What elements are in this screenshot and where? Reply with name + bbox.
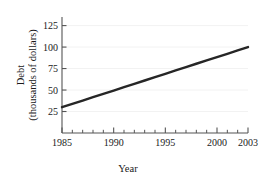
- y-axis-title-line1: Debt: [15, 65, 26, 85]
- x-tick-label-2000: 2000: [207, 137, 227, 148]
- x-axis-title: Year: [118, 163, 138, 174]
- x-tick-label-2003: 2003: [238, 137, 258, 148]
- chart-background: [0, 0, 259, 178]
- y-tick-label-75: 75: [48, 63, 58, 74]
- x-tick-label-1985: 1985: [52, 137, 72, 148]
- y-axis-title-line2: (thousands of dollars): [27, 29, 39, 121]
- y-tick-label-100: 100: [43, 42, 58, 53]
- x-tick-label-1990: 1990: [104, 137, 124, 148]
- line-chart: 255075100125 19851990199520002003 Year D…: [0, 0, 259, 178]
- chart-figure: 255075100125 19851990199520002003 Year D…: [0, 0, 259, 178]
- y-tick-label-50: 50: [48, 85, 58, 96]
- x-tick-label-1995: 1995: [155, 137, 175, 148]
- y-tick-label-125: 125: [43, 20, 58, 31]
- y-tick-label-25: 25: [48, 106, 58, 117]
